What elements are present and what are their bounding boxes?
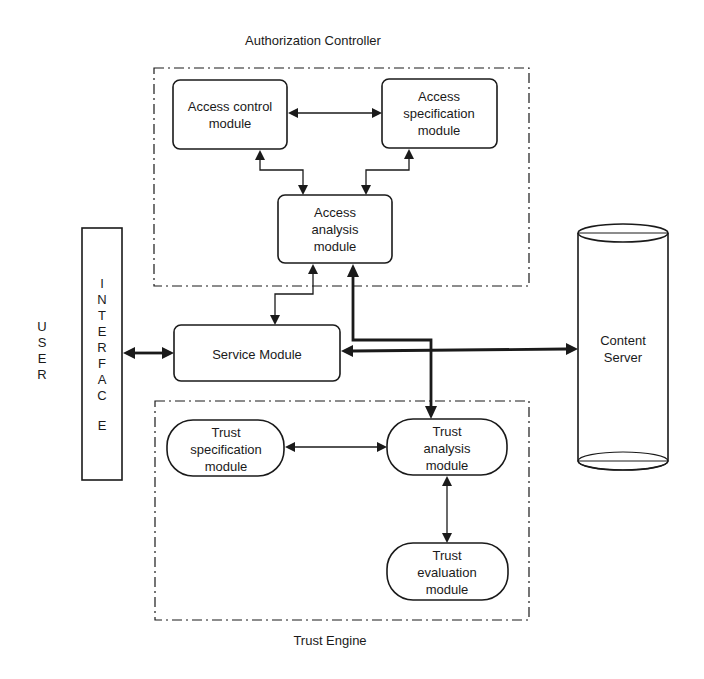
trust-analysis-module[interactable]: Trust analysis module (387, 419, 507, 475)
edge-access-analysis-trust-analysis (347, 264, 437, 419)
svg-text:evaluation: evaluation (417, 565, 476, 580)
edge-service-access-analysis (270, 264, 318, 325)
access-control-module[interactable]: Access control module (173, 80, 287, 149)
svg-text:Trust: Trust (211, 425, 241, 440)
svg-text:module: module (418, 123, 461, 138)
svg-text:module: module (314, 239, 357, 254)
svg-text:E: E (98, 324, 107, 339)
svg-text:Access control: Access control (188, 99, 273, 114)
svg-text:I: I (100, 276, 104, 291)
svg-text:Service Module: Service Module (212, 347, 302, 362)
svg-text:R: R (97, 340, 106, 355)
svg-text:E: E (38, 351, 47, 366)
svg-text:U: U (37, 319, 46, 334)
svg-text:Access: Access (418, 89, 460, 104)
svg-text:F: F (98, 356, 106, 371)
authorization-controller-label: Authorization Controller (245, 33, 382, 48)
svg-text:Trust: Trust (432, 548, 462, 563)
svg-text:Server: Server (604, 350, 643, 365)
svg-text:C: C (97, 388, 106, 403)
svg-text:module: module (426, 458, 469, 473)
svg-text:analysis: analysis (312, 222, 359, 237)
svg-text:Content: Content (600, 333, 646, 348)
svg-text:analysis: analysis (424, 441, 471, 456)
svg-text:specification: specification (190, 442, 262, 457)
svg-text:S: S (38, 335, 47, 350)
svg-text:E: E (98, 418, 107, 433)
edge-access-control-access-specification (288, 108, 382, 118)
svg-text:specification: specification (403, 106, 475, 121)
svg-text:Trust: Trust (432, 424, 462, 439)
trust-specification-module[interactable]: Trust specification module (167, 420, 284, 476)
edge-access-control-access-analysis (255, 150, 308, 195)
service-module[interactable]: Service Module (174, 325, 340, 381)
svg-text:T: T (98, 308, 106, 323)
svg-text:module: module (205, 459, 248, 474)
user-label: U S E R (37, 319, 46, 382)
access-control-box[interactable] (173, 80, 287, 149)
edge-interface-service (123, 347, 174, 359)
trust-engine-label: Trust Engine (293, 633, 366, 648)
access-analysis-module[interactable]: Access analysis module (278, 195, 392, 263)
svg-text:module: module (209, 116, 252, 131)
svg-text:R: R (37, 367, 46, 382)
edge-trust-specification-trust-analysis (285, 442, 387, 452)
svg-text:N: N (97, 292, 106, 307)
svg-text:Access: Access (314, 205, 356, 220)
svg-text:A: A (98, 372, 107, 387)
trust-evaluation-module[interactable]: Trust evaluation module (387, 543, 508, 600)
edge-access-specification-access-analysis (361, 149, 414, 195)
interface-node[interactable]: I N T E R F A C E (82, 228, 122, 480)
content-server-node[interactable]: Content Server (578, 224, 668, 470)
access-specification-module[interactable]: Access specification module (382, 79, 497, 148)
architecture-diagram: Authorization Controller Trust Engine U … (0, 0, 704, 679)
edge-service-content-server (341, 343, 578, 357)
svg-text:module: module (426, 582, 469, 597)
edge-trust-analysis-trust-evaluation (442, 476, 452, 543)
